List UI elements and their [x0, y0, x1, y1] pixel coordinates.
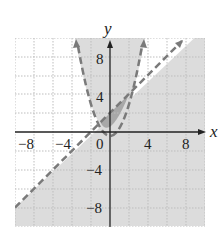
y-tick-label: −8	[86, 201, 102, 216]
y-tick-label: 4	[96, 90, 104, 105]
x-tick-label: 4	[144, 137, 152, 152]
x-tick-label: −8	[18, 137, 34, 152]
x-axis-label: x	[210, 123, 218, 140]
x-tick-label: 8	[182, 137, 190, 152]
y-tick-label: 8	[96, 52, 104, 67]
arrow-icon	[175, 40, 183, 48]
y-axis-label: y	[104, 20, 112, 37]
origin-label: 0	[96, 137, 104, 152]
x-tick-label: −4	[55, 137, 71, 152]
y-tick-label: −4	[86, 163, 102, 178]
